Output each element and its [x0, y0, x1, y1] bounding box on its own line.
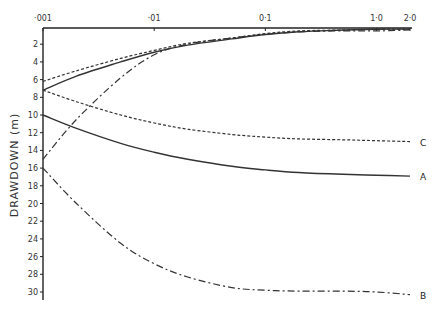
drawdown-chart: ·001·010·11·02·0246810121416182022242628… [0, 0, 435, 315]
y-tick-label: 8 [33, 93, 38, 102]
ticks: ·001·010·11·02·0246810121416182022242628… [28, 14, 417, 297]
x-tick-label: ·001 [34, 14, 52, 23]
series-label-b: B [420, 291, 426, 301]
y-tick-label: 20 [28, 200, 38, 209]
x-tick-label: 2·0 [404, 14, 417, 23]
y-axis-label: DRAWDOWN (m) [8, 113, 21, 218]
y-tick-label: 12 [28, 129, 38, 138]
series-line-b [43, 168, 410, 295]
y-tick-label: 26 [28, 253, 38, 262]
x-tick-label: 1·0 [370, 14, 383, 23]
y-tick-label: 2 [33, 40, 38, 49]
series-line-c [43, 90, 410, 141]
series-labels: ABC [420, 138, 427, 301]
y-tick-label: 10 [28, 111, 38, 120]
series-line-c-upper [43, 29, 410, 81]
y-tick-label: 22 [28, 217, 38, 226]
series-lines [43, 29, 410, 295]
y-tick-label: 24 [28, 235, 38, 244]
y-tick-label: 4 [33, 58, 38, 67]
y-tick-label: 28 [28, 270, 38, 279]
x-tick-label: 0·1 [259, 14, 272, 23]
y-tick-label: 6 [33, 76, 38, 85]
y-tick-label: 16 [28, 164, 38, 173]
series-label-a: A [420, 172, 427, 182]
y-tick-label: 14 [28, 146, 38, 155]
x-tick-label: ·01 [148, 14, 161, 23]
y-tick-label: 18 [28, 182, 38, 191]
y-tick-label: 30 [28, 288, 38, 297]
series-line-a [43, 115, 410, 176]
series-label-c: C [420, 138, 426, 148]
